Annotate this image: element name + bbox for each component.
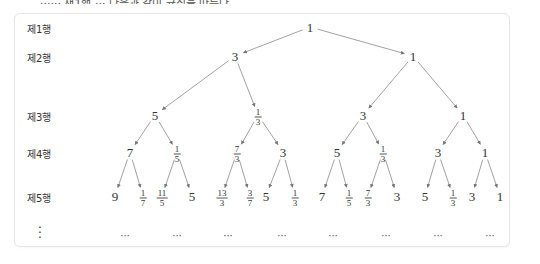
tree-edge	[118, 160, 128, 188]
ellipsis: ···	[485, 230, 495, 241]
tree-edge	[443, 122, 458, 145]
tree-node: 5	[422, 190, 429, 203]
tree-edge	[441, 160, 451, 188]
tree-node: 3	[435, 146, 442, 159]
tree-node: 5	[152, 109, 159, 122]
tree-edge	[385, 160, 394, 188]
tree-node: 3	[394, 190, 401, 203]
tree-node: 13	[450, 185, 457, 208]
denominator: 3	[451, 199, 456, 208]
tree-node: 1	[410, 50, 417, 63]
tree-node: 9	[112, 190, 119, 203]
tree-edge	[241, 122, 254, 144]
denominator: 5	[175, 155, 180, 164]
tree-node: 1	[460, 109, 467, 122]
tree-edge	[135, 122, 150, 145]
tree-node: 115	[157, 185, 168, 208]
tree-edge	[159, 122, 172, 144]
tree-edge	[239, 160, 247, 188]
tree-edge	[165, 160, 175, 188]
tree-node: 3	[232, 50, 239, 63]
tree-node: 5	[263, 190, 270, 203]
tree-node: 73	[365, 185, 372, 208]
denominator: 3	[220, 199, 225, 208]
ellipsis: ···	[223, 230, 233, 241]
tree-node: 5	[189, 190, 196, 203]
denominator: 3	[256, 118, 261, 127]
ellipsis: ···	[172, 230, 182, 241]
tree-edge	[285, 160, 293, 188]
tree-edge	[162, 61, 228, 110]
tree-edge	[467, 122, 480, 144]
denominator: 5	[160, 199, 165, 208]
denominator: 3	[366, 199, 371, 208]
denominator: 3	[293, 199, 298, 208]
tree-node: 13	[380, 141, 387, 164]
tree-edge	[132, 160, 140, 188]
tree-edge	[269, 159, 280, 187]
tree-node: 5	[334, 146, 341, 159]
tree-edge	[339, 160, 347, 188]
denominator: 3	[235, 155, 240, 164]
tree-node: 3	[469, 190, 476, 203]
tree-node: 15	[174, 141, 181, 164]
tree-edge	[418, 62, 457, 108]
tree-edge	[371, 160, 381, 188]
tree-edge	[225, 160, 235, 188]
tree-node: 1	[307, 21, 314, 34]
denominator: 7	[141, 199, 146, 208]
ellipsis: ···	[120, 230, 130, 241]
tree-edge	[342, 122, 358, 145]
tree-edge	[428, 160, 436, 188]
tree-node: 17	[140, 185, 147, 208]
tree-node: 3	[280, 146, 287, 159]
ellipsis: ···	[277, 230, 287, 241]
tree-node: 37	[247, 185, 254, 208]
tree-node: 13	[292, 185, 299, 208]
tree-node: 13	[255, 104, 262, 127]
denominator: 7	[248, 199, 253, 208]
tree-edge	[475, 160, 483, 188]
tree-edge	[325, 160, 335, 188]
tree-node: 133	[217, 185, 228, 208]
tree-edge	[243, 30, 302, 53]
tree-edge	[488, 160, 498, 188]
tree-node: 7	[319, 190, 326, 203]
ellipsis: ···	[328, 230, 338, 241]
ellipsis: ···	[381, 230, 391, 241]
tree-edge	[238, 63, 255, 106]
tree-edge	[367, 122, 379, 144]
tree-edge	[369, 62, 408, 108]
tree-node: 3	[360, 109, 367, 122]
ellipsis: ···	[433, 230, 443, 241]
tree-edge	[318, 29, 405, 53]
tree-edge	[180, 160, 190, 188]
tree-node: 7	[127, 146, 134, 159]
denominator: 3	[381, 155, 386, 164]
tree-node: 1	[497, 190, 504, 203]
tree-node: 15	[346, 185, 353, 208]
denominator: 5	[347, 199, 352, 208]
tree-edges	[0, 0, 540, 264]
tree-node: 73	[234, 141, 241, 164]
tree-edge	[262, 122, 277, 145]
tree-node: 1	[482, 146, 489, 159]
